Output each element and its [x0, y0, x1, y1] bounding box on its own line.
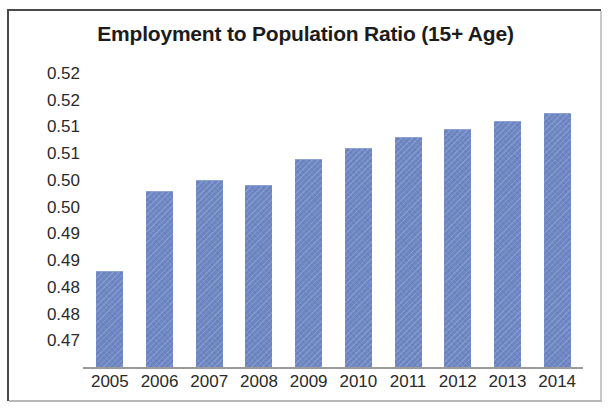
x-axis-tick-label: 2013: [489, 372, 527, 392]
x-axis-tick-label: 2005: [91, 372, 129, 392]
y-axis-tick-label: 0.52: [22, 91, 80, 111]
bar-2008: [245, 185, 272, 368]
x-axis: 2005200620072008200920102011201220132014: [85, 372, 582, 398]
figure-border-shadow-right: [600, 11, 602, 401]
bar-2006: [146, 191, 173, 368]
y-axis-tick-label: 0.47: [22, 331, 80, 351]
y-axis-tick-label: 0.50: [22, 198, 80, 218]
bar-2012: [444, 129, 471, 368]
bar-2007: [196, 180, 223, 368]
bar-2010: [345, 148, 372, 368]
y-axis-tick-label: 0.51: [22, 117, 80, 137]
figure-border-shadow-bottom: [9, 400, 602, 402]
x-axis-tick-label: 2007: [190, 372, 228, 392]
y-axis-tick-label: 0.52: [22, 64, 80, 84]
y-axis-tick-label: 0.49: [22, 224, 80, 244]
x-axis-tick-label: 2011: [390, 372, 427, 392]
bar-2005: [96, 271, 123, 368]
bar-2014: [544, 113, 571, 368]
x-axis-tick-label: 2006: [141, 372, 179, 392]
x-axis-tick-label: 2014: [538, 372, 576, 392]
chart-screenshot: Employment to Population Ratio (15+ Age)…: [0, 0, 611, 411]
x-axis-tick-label: 2010: [339, 372, 377, 392]
x-axis-line: [83, 367, 583, 369]
y-axis-tick-label: 0.48: [22, 305, 80, 325]
x-axis-tick-label: 2012: [439, 372, 477, 392]
bars-container: [85, 74, 582, 368]
x-axis-tick-label: 2008: [240, 372, 278, 392]
x-axis-tick-label: 2009: [290, 372, 328, 392]
bar-2011: [395, 137, 422, 368]
bar-2013: [494, 121, 521, 368]
y-axis-tick-label: 0.49: [22, 251, 80, 271]
y-axis-tick-label: 0.48: [22, 278, 80, 298]
y-axis-tick-label: 0.50: [22, 171, 80, 191]
bar-2009: [295, 159, 322, 368]
y-axis: 0.520.520.510.510.500.500.490.490.480.48…: [22, 74, 80, 368]
chart-title: Employment to Population Ratio (15+ Age): [0, 22, 611, 46]
y-axis-tick-label: 0.51: [22, 144, 80, 164]
